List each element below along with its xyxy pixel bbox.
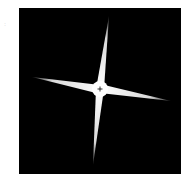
star-arm-right <box>100 84 171 101</box>
star-arm-bottom <box>93 89 104 165</box>
star-figure <box>0 0 191 183</box>
star-arm-left <box>32 77 100 94</box>
star-arm-top <box>96 16 109 89</box>
